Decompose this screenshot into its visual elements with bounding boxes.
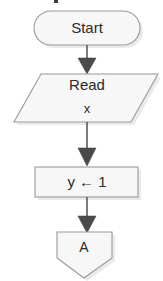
arrowhead-down-icon — [78, 148, 96, 166]
read-variable-label: x — [84, 101, 91, 116]
node-read[interactable]: Read x — [14, 74, 161, 125]
connector-label: A — [79, 239, 89, 255]
read-label: Read — [69, 76, 105, 93]
edge-start-to-read — [78, 45, 96, 74]
flowchart-svg: Start Read x y ← 1 — [0, 0, 163, 281]
flowchart-canvas: Start Read x y ← 1 — [0, 0, 163, 281]
cropped-text-artifact — [54, 0, 58, 3]
arrowhead-down-icon — [78, 216, 96, 233]
start-label: Start — [71, 19, 104, 36]
edge-read-to-assign — [78, 122, 96, 166]
node-connector-a[interactable]: A — [57, 232, 115, 281]
assign-label: y ← 1 — [67, 173, 106, 190]
edge-assign-to-connector — [78, 197, 96, 233]
arrowhead-down-icon — [78, 58, 96, 74]
node-start[interactable]: Start — [34, 11, 143, 48]
node-assign[interactable]: y ← 1 — [35, 167, 141, 200]
